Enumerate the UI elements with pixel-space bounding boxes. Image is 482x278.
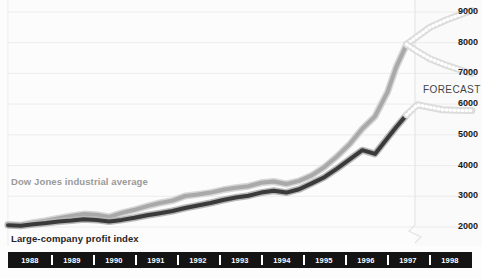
y-axis-tick-label: 9000	[458, 6, 478, 16]
x-axis-bar: 1988198919901991199219931994199519961997…	[8, 252, 472, 268]
x-axis-tick-label: 1994	[261, 253, 303, 267]
y-axis-tick-label: 6000	[458, 98, 478, 108]
y-axis-tick-label: 3000	[458, 190, 478, 200]
y-axis-tick-label: 8000	[458, 37, 478, 47]
series-label-dow: Dow Jones industrial average	[11, 176, 148, 187]
chart-container: 90008000700060005000400030002000 FORECAS…	[0, 0, 482, 278]
y-axis-tick-label: 7000	[458, 67, 478, 77]
x-axis-tick-label: 1996	[345, 253, 387, 267]
x-axis-tick-label: 1988	[9, 253, 51, 267]
x-axis-tick-label: 1993	[219, 253, 261, 267]
x-axis-tick-label: 1997	[387, 253, 429, 267]
axis-break-zigzag	[409, 225, 421, 243]
y-axis-tick-label: 2000	[458, 221, 478, 231]
series-line	[8, 115, 407, 226]
x-axis-tick-label: 1998	[429, 253, 471, 267]
x-axis-tick-label: 1992	[177, 253, 219, 267]
x-axis-tick-label: 1989	[51, 253, 93, 267]
series-label-profit: Large-company profit index	[11, 233, 139, 244]
series-line-halo	[8, 115, 407, 226]
forecast-annotation: FORECAST	[423, 84, 481, 95]
x-axis-tick-label: 1991	[135, 253, 177, 267]
y-axis-tick-label: 4000	[458, 160, 478, 170]
x-axis-tick-label: 1990	[93, 253, 135, 267]
y-axis-tick-label: 5000	[458, 129, 478, 139]
x-axis-tick-label: 1995	[303, 253, 345, 267]
